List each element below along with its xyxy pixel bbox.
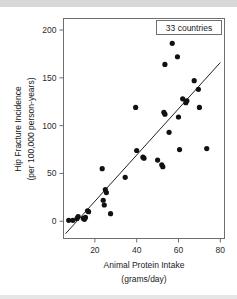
data-point — [177, 147, 182, 152]
data-point — [170, 41, 175, 46]
data-point — [184, 98, 189, 103]
figure-container: 050100150200 20406080 33 countries Anima… — [0, 0, 237, 299]
y-axis-title: Hip Fracture Incidence — [13, 86, 23, 172]
y-tick-label: 100 — [42, 121, 56, 131]
data-point — [196, 87, 201, 92]
data-point — [162, 62, 167, 67]
x-axis-ticks — [95, 239, 220, 243]
scatter-plot: 050100150200 20406080 33 countries Anima… — [0, 0, 237, 299]
data-point — [204, 146, 209, 151]
data-point — [175, 54, 180, 59]
data-point — [86, 209, 91, 214]
data-point — [166, 130, 171, 135]
legend-label: 33 countries — [166, 23, 212, 33]
data-point — [100, 166, 105, 171]
data-point — [83, 215, 88, 220]
data-point — [141, 156, 146, 161]
y-tick-label: 150 — [42, 73, 56, 83]
data-point — [108, 211, 113, 216]
data-point — [197, 105, 202, 110]
data-point — [162, 112, 167, 117]
legend: 33 countries — [157, 21, 222, 35]
x-axis-tick-labels: 20406080 — [90, 245, 225, 255]
plot-frame — [64, 19, 225, 239]
x-axis-title: Animal Protein Intake — [104, 260, 185, 270]
y-axis-units: (per 100,000 person-years) — [26, 77, 36, 180]
data-point — [155, 157, 160, 162]
data-point — [176, 114, 181, 119]
x-tick-label: 80 — [216, 245, 226, 255]
data-point — [104, 190, 109, 195]
x-tick-label: 40 — [132, 245, 142, 255]
data-point — [134, 148, 139, 153]
data-point — [102, 202, 107, 207]
y-axis-ticks — [60, 30, 64, 221]
y-tick-label: 200 — [42, 25, 56, 35]
data-point — [76, 214, 81, 219]
y-tick-label: 50 — [47, 168, 57, 178]
data-point — [192, 78, 197, 83]
y-axis-tick-labels: 050100150200 — [42, 25, 56, 226]
data-point — [101, 198, 106, 203]
x-tick-label: 60 — [174, 245, 184, 255]
data-point-group — [66, 28, 209, 223]
data-point — [133, 105, 138, 110]
x-tick-label: 20 — [90, 245, 100, 255]
data-point — [160, 164, 165, 169]
x-axis-units: (grams/day) — [121, 274, 167, 284]
y-tick-label: 0 — [52, 216, 57, 226]
data-point — [123, 175, 128, 180]
